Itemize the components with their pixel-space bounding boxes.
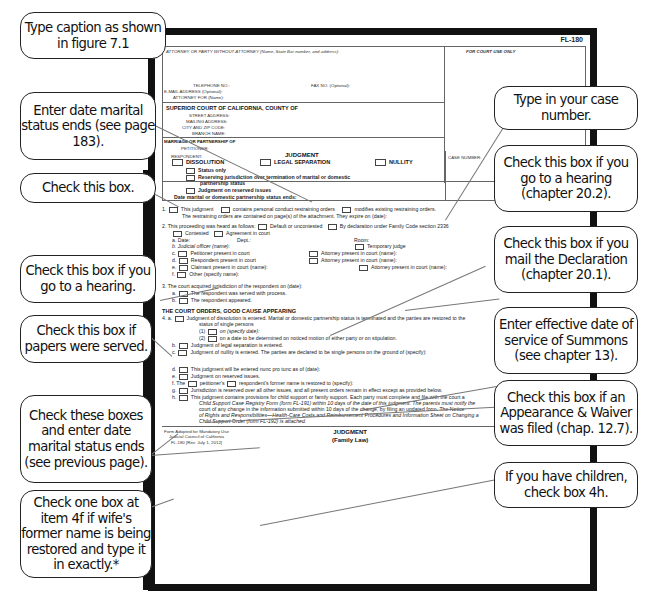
case-number-label: CASE NUMBER: [448, 155, 481, 161]
legal-separation-checkbox[interactable] [260, 159, 271, 166]
respondent-attorney-checkbox[interactable] [309, 258, 318, 264]
status-only-option[interactable]: Status only [185, 167, 226, 174]
item-4b-checkbox[interactable] [179, 343, 188, 349]
item-4h-checkbox[interactable] [179, 395, 188, 401]
item-1-line2: The restraining orders are contained on … [182, 213, 387, 220]
status-ends-field[interactable]: Date marital or domestic partnership sta… [174, 194, 297, 201]
item-4e-checkbox[interactable] [179, 374, 188, 380]
item-4e[interactable]: e. Judgment on reserved issues. [172, 373, 260, 380]
judicial-officer-field[interactable]: b. Judicial officer (name): [172, 243, 230, 250]
petitioner-attorney-checkbox[interactable] [309, 251, 318, 257]
attorney-label: ATTORNEY OR PARTY WITHOUT ATTORNEY (Name… [166, 49, 339, 55]
declaration-checkbox[interactable] [328, 224, 337, 230]
callout-declaration: Check this box if you mail the Declarati… [494, 226, 638, 293]
attorney-for-label: ATTORNEY FOR (Name): [173, 95, 224, 101]
court-section[interactable]: SUPERIOR COURT OF CALIFORNIA, COUNTY OF … [163, 103, 445, 138]
callout-papers-served: Check this box if papers were served. [20, 315, 152, 363]
item-4f-petitioner-checkbox[interactable] [188, 381, 197, 387]
mailing-label: MAILING ADDRESS: [186, 119, 227, 125]
other-option[interactable]: f. Other (specify name): [172, 271, 239, 278]
item-1-modifies-checkbox[interactable] [342, 207, 351, 213]
attorney-section[interactable]: ATTORNEY OR PARTY WITHOUT ATTORNEY (Name… [163, 47, 445, 103]
court-use-label: FOR COURT USE ONLY [466, 49, 515, 55]
reserving-checkbox[interactable] [186, 175, 195, 181]
item-4g[interactable]: g. Jurisdiction is reserved over all oth… [172, 387, 442, 394]
status-only-checkbox[interactable] [186, 168, 195, 174]
item-4d[interactable]: d. This judgment will be entered nunc pr… [172, 366, 320, 373]
appeared-option[interactable]: b. The respondent appeared. [172, 297, 252, 304]
nullity-option[interactable]: NULLITY [374, 159, 413, 166]
item-4f-respondent-checkbox[interactable] [227, 381, 236, 387]
appeared-checkbox[interactable] [179, 298, 188, 304]
callout-hearing-20-2: Check this box if you go to a hearing (c… [494, 145, 638, 212]
item-4d-checkbox[interactable] [179, 367, 188, 373]
item-4b[interactable]: b. Judgment of legal separation is enter… [172, 342, 283, 349]
item-4a-checkbox[interactable] [175, 316, 184, 322]
callout-check-box: Check this box. [20, 173, 156, 203]
orders-title: THE COURT ORDERS, GOOD CAUSE APPEARING [162, 308, 296, 315]
item-2: 2. This proceeding was heard as follows:… [162, 223, 449, 230]
item-4a-line2: status of single persons [199, 321, 254, 328]
item-4a2-checkbox[interactable] [208, 336, 217, 342]
item-1-judgment-checkbox[interactable] [169, 207, 178, 213]
callout-former-name: Check one box at item 4f if wife's forme… [20, 490, 152, 578]
petitioner-attorney-option[interactable]: Attorney present in court (name): [308, 250, 397, 257]
item-1-restraining-checkbox[interactable] [221, 207, 230, 213]
branch-label: BRANCH NAME: [192, 131, 226, 137]
dept-field[interactable]: Dept.: [237, 237, 251, 244]
form-id: FL-180 [560, 36, 583, 45]
street-label: STREET ADDRESS: [189, 113, 230, 119]
city-label: CITY AND ZIP CODE: [182, 125, 225, 131]
callout-appearance-waiver: Check this box if an Appearance & Waiver… [494, 380, 638, 446]
telephone-label: TELEPHONE NO.: [193, 83, 230, 89]
legal-separation-option[interactable]: LEGAL SEPARATION [259, 159, 330, 166]
respondent-present-option[interactable]: d. Respondent present in court [172, 257, 256, 264]
contested-checkbox[interactable] [173, 231, 182, 237]
callout-summons: Enter effective date of service of Summo… [494, 307, 638, 374]
other-checkbox[interactable] [177, 272, 186, 278]
reserved-issues-option[interactable]: Judgment on reserved issues [185, 187, 271, 194]
item-4f[interactable]: f. The petitioner's respondent's former … [172, 380, 353, 387]
item-4a1-checkbox[interactable] [208, 329, 217, 335]
reserving-line2: partnership status [200, 180, 245, 187]
reserved-issues-checkbox[interactable] [186, 188, 195, 194]
item-4c-checkbox[interactable] [178, 350, 187, 356]
callout-children: If you have children, check box 4h. [494, 462, 638, 508]
callout-case-number: Type in your case number. [494, 86, 638, 130]
marriage-label: MARRIAGE OR PARTNERSHIP OF [164, 139, 235, 145]
default-checkbox[interactable] [258, 224, 267, 230]
temp-judge-option[interactable]: Temporary judge [354, 243, 406, 250]
claimant-attorney-checkbox[interactable] [359, 265, 368, 271]
item-4a1[interactable]: (1) on (specify date): [199, 328, 260, 335]
respondent-attorney-option[interactable]: Attorney present in court (name): [308, 257, 397, 264]
callout-status-boxes: Check these boxes and enter date marital… [20, 395, 152, 483]
petitioner-present-checkbox[interactable] [178, 251, 187, 257]
item-1: 1. This judgment contains personal condu… [162, 206, 436, 213]
callout-caption: Type caption as shown in figure 7.1 [20, 12, 166, 59]
dissolution-checkbox[interactable] [172, 159, 183, 166]
callout-hearing: Check this box if you go to a hearing. [20, 255, 156, 303]
court-title: SUPERIOR COURT OF CALIFORNIA, COUNTY OF [166, 105, 298, 112]
agreement-checkbox[interactable] [214, 231, 223, 237]
callout-status-ends: Enter date marital status ends (see page… [20, 92, 156, 160]
claimant-present-checkbox[interactable] [179, 265, 188, 271]
item-4c[interactable]: c. Judgment of nullity is entered. The p… [172, 349, 427, 356]
claimant-present-option[interactable]: e. Claimant present in court (name): [172, 264, 268, 271]
dissolution-option[interactable]: DISSOLUTION [171, 159, 224, 166]
item-4g-checkbox[interactable] [179, 388, 188, 394]
item-4a2[interactable]: (2) on a date to be determined on notice… [199, 335, 397, 342]
claimant-attorney-option[interactable]: Attorney present in court (name): [358, 264, 447, 271]
footer-title: JUDGMENT(Family Law) [332, 429, 368, 444]
fax-label: FAX NO. (Optional): [311, 83, 350, 89]
item-3[interactable]: 3. The court acquired jurisdiction of th… [162, 283, 302, 290]
respondent-present-checkbox[interactable] [179, 258, 188, 264]
nullity-checkbox[interactable] [375, 159, 386, 166]
email-label: E-MAIL ADDRESS (Optional): [164, 89, 222, 95]
item-2-contested-row: Contested Agreement in court [172, 230, 270, 237]
temp-judge-checkbox[interactable] [355, 244, 364, 250]
petitioner-present-option[interactable]: c. Petitioner present in court [172, 250, 250, 257]
